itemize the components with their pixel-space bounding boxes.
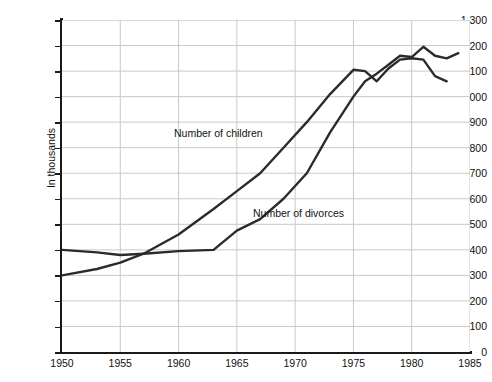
series-lines <box>62 20 470 352</box>
x-tick-label: 1975 <box>330 357 376 369</box>
y-tick-mark <box>55 224 61 226</box>
series-label-divorces: Number of divorces <box>253 207 344 219</box>
y-tick-mark <box>55 199 61 201</box>
y-tick-mark <box>55 97 61 99</box>
x-tick-label: 1965 <box>214 357 260 369</box>
y-tick-mark <box>55 250 61 252</box>
y-tick-mark <box>55 301 61 303</box>
y-tick-mark <box>55 173 61 175</box>
y-tick-mark <box>55 122 61 124</box>
x-tick-label: 1985 <box>447 357 492 369</box>
y-tick-mark <box>55 20 61 22</box>
x-tick-label: 1950 <box>39 357 85 369</box>
series-line-1 <box>62 58 447 275</box>
y-tick-mark <box>55 352 61 354</box>
y-tick-mark <box>55 327 61 329</box>
y-tick-mark <box>55 46 61 48</box>
y-axis-title: In thousands <box>45 103 57 213</box>
x-tick-label: 1980 <box>389 357 435 369</box>
y-tick-mark <box>55 275 61 277</box>
x-tick-label: 1960 <box>156 357 202 369</box>
series-label-children: Number of children <box>174 127 263 139</box>
y-tick-mark <box>55 148 61 150</box>
y-tick-mark <box>55 71 61 73</box>
x-tick-label: 1970 <box>272 357 318 369</box>
plot-area <box>62 20 470 352</box>
series-line-0 <box>62 47 458 255</box>
x-tick-label: 1955 <box>97 357 143 369</box>
